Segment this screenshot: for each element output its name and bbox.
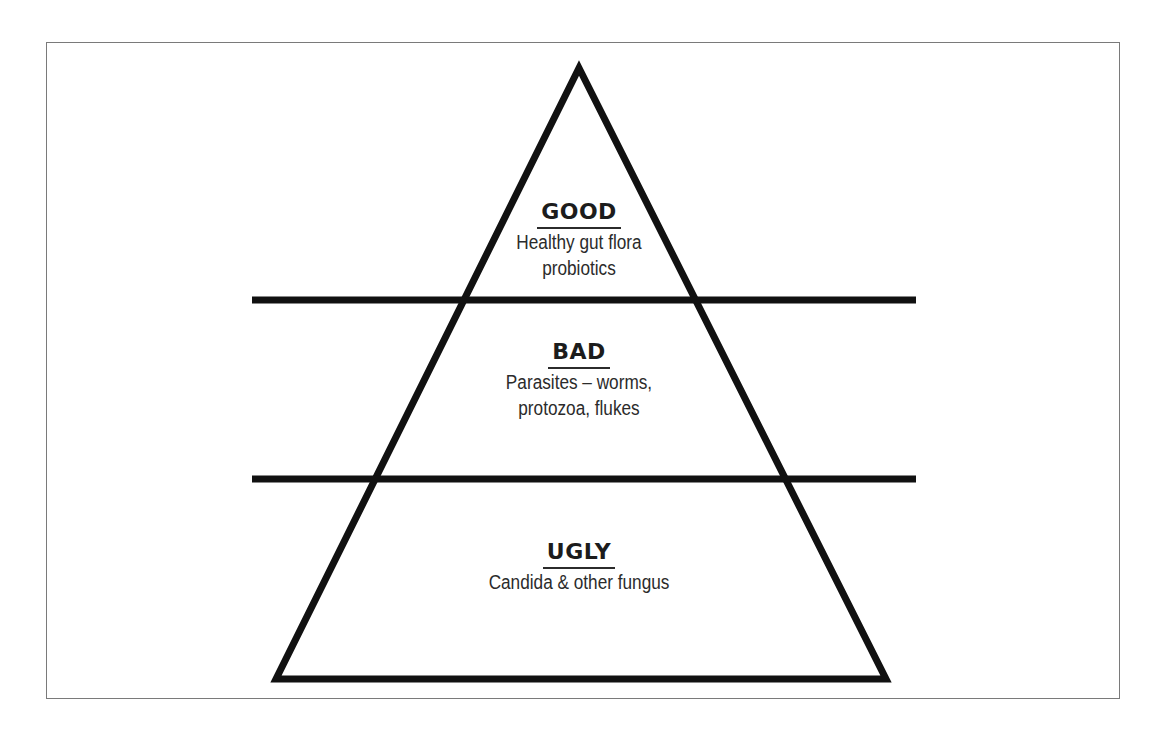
tier-bad: BAD Parasites – worms, protozoa, flukes (429, 338, 729, 421)
tier-good-line-1: Healthy gut flora (450, 229, 708, 255)
tier-ugly-title: UGLY (543, 538, 615, 569)
tier-bad-title: BAD (548, 338, 610, 369)
tier-ugly-line-1: Candida & other fungus (450, 569, 708, 595)
tier-good: GOOD Healthy gut flora probiotics (429, 198, 729, 281)
tier-ugly: UGLY Candida & other fungus (429, 538, 729, 595)
tier-bad-line-2: protozoa, flukes (450, 395, 708, 421)
tier-good-title: GOOD (537, 198, 621, 229)
tier-bad-line-1: Parasites – worms, (450, 369, 708, 395)
tier-good-line-2: probiotics (450, 255, 708, 281)
